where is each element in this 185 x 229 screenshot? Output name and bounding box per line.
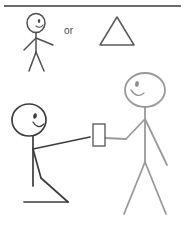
standing-stick-figure: [105, 73, 167, 214]
standing-figure-left-leg: [124, 162, 145, 214]
handed-item: [93, 124, 105, 146]
kneeling-figure-arm: [33, 137, 90, 149]
standing-figure-smile: [131, 90, 144, 95]
illustration-canvas: or: [0, 0, 185, 229]
top-figure-right-leg: [36, 52, 44, 71]
top-figure-eye-icon: [38, 19, 41, 23]
kneeling-figure-shin: [41, 178, 68, 202]
standing-figure-right-leg: [145, 162, 166, 214]
kneeling-figure-head: [12, 104, 46, 136]
kneeling-figure-thigh: [33, 149, 41, 178]
top-figure-smile: [36, 25, 43, 27]
top-figure-left-arm: [24, 38, 36, 50]
choice-label-or: or: [64, 26, 74, 36]
standing-figure-eye-icon: [135, 81, 140, 87]
top-figure-head: [27, 14, 45, 33]
standing-figure-left-upper-arm: [126, 119, 145, 139]
kneeling-figure-smile: [33, 122, 44, 127]
top-figure-right-arm: [36, 38, 53, 45]
top-figure-left-leg: [29, 52, 36, 71]
standing-figure-right-arm: [145, 119, 167, 165]
kneeling-figure-eye-icon: [33, 113, 38, 119]
kneeling-stick-figure: [12, 104, 90, 202]
stick-figure-scene: [0, 0, 185, 229]
alternative-triangle-icon: [100, 17, 134, 45]
standing-figure-left-forearm: [105, 138, 126, 139]
top-stick-figure: [24, 14, 53, 72]
